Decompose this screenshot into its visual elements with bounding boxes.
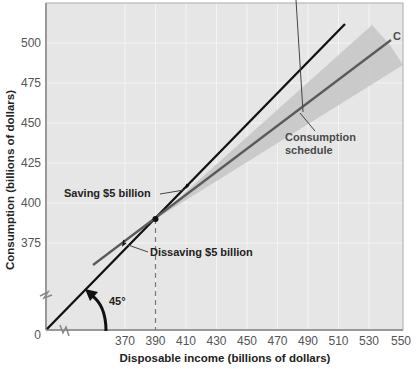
y-tick: 500 <box>21 36 41 50</box>
y-tick: 450 <box>21 116 41 130</box>
break-even-point <box>153 216 159 222</box>
dissaving-label: Dissaving $5 billion <box>150 246 253 258</box>
x-tick: 530 <box>359 334 379 348</box>
schedule-label-line2: schedule <box>285 144 333 156</box>
consumption-chart: 45° Saving $5 billion Dissaving $5 billi… <box>0 0 418 369</box>
angle-label: 45° <box>109 295 126 307</box>
x-tick: 370 <box>115 334 135 348</box>
y-axis-title: Consumption (billions of dollars) <box>4 90 16 270</box>
y-tick: 475 <box>21 76 41 90</box>
x-tick: 550 <box>391 334 411 348</box>
x-tick: 510 <box>328 334 348 348</box>
x-tick: 470 <box>267 334 287 348</box>
schedule-label-line1: Consumption <box>285 131 356 143</box>
x-tick: 490 <box>298 334 318 348</box>
x-tick: 390 <box>145 334 165 348</box>
c-label: C <box>393 30 401 42</box>
y-tick: 400 <box>21 196 41 210</box>
y-tick: 425 <box>21 156 41 170</box>
x-tick: 430 <box>206 334 226 348</box>
x-tick: 450 <box>237 334 257 348</box>
saving-label: Saving $5 billion <box>64 187 151 199</box>
y-tick: 375 <box>21 236 41 250</box>
x-tick: 410 <box>176 334 196 348</box>
x-axis-title: Disposable income (billions of dollars) <box>120 352 331 364</box>
origin-label: 0 <box>34 328 41 342</box>
